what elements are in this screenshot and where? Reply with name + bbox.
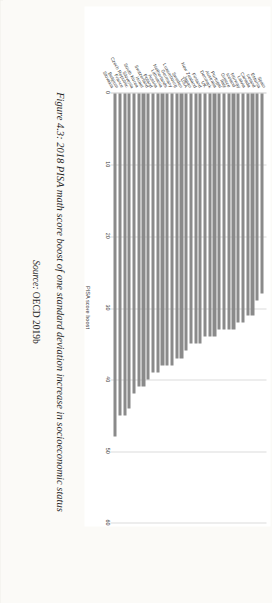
- bar-row: [222, 93, 225, 522]
- bar: [222, 93, 225, 329]
- bar-row: [236, 93, 239, 522]
- bar-row: [250, 93, 253, 522]
- bar: [127, 93, 130, 408]
- bar: [170, 93, 173, 365]
- bar-row: [160, 93, 163, 522]
- bar-row: [241, 93, 244, 522]
- figure-caption: Figure 4.3: 2018 PISA math score boost o…: [53, 14, 66, 589]
- category-axis-labels: SpainEstoniaIrelandCanadaLatviaNorwayIce…: [110, 6, 266, 90]
- source-label: Source:: [30, 260, 40, 289]
- bar-row: [146, 93, 149, 522]
- bar: [255, 93, 258, 300]
- bar: [203, 93, 206, 336]
- bar: [156, 93, 159, 372]
- value-tick-label: 60: [104, 519, 110, 525]
- bar-row: [231, 93, 234, 522]
- value-tick-label: 50: [104, 447, 110, 453]
- bar-row: [113, 93, 116, 522]
- bar: [118, 93, 121, 415]
- bar: [160, 93, 163, 365]
- bar: [208, 93, 211, 336]
- bar: [165, 93, 168, 365]
- bar-row: [260, 93, 263, 522]
- bar: [250, 93, 253, 315]
- value-tick-label: 20: [104, 232, 110, 238]
- bar-row: [255, 93, 258, 522]
- value-axis-title: PISA score boost: [84, 92, 90, 522]
- value-tick-label: 10: [104, 161, 110, 167]
- bar: [241, 93, 244, 322]
- bar: [236, 93, 239, 322]
- bar: [217, 93, 220, 329]
- bar-row: [165, 93, 168, 522]
- bar-row: [179, 93, 182, 522]
- bar-series: [110, 93, 266, 522]
- bar: [179, 93, 182, 358]
- bar-row: [151, 93, 154, 522]
- bar: [123, 93, 126, 415]
- bar: [194, 93, 197, 343]
- bar-chart: SpainEstoniaIrelandCanadaLatviaNorwayIce…: [84, 6, 270, 526]
- bar-row: [212, 93, 215, 522]
- bar-row: [194, 93, 197, 522]
- bar: [146, 93, 149, 379]
- bar-row: [198, 93, 201, 522]
- rotated-figure-container: SpainEstoniaIrelandCanadaLatviaNorwayIce…: [0, 0, 272, 603]
- bar: [113, 93, 116, 436]
- plot-area: [110, 92, 266, 522]
- bar-row: [132, 93, 135, 522]
- value-axis-ticks: 0102030405060: [92, 92, 110, 522]
- source-value: OECD 2019b: [30, 291, 40, 343]
- bar-row: [127, 93, 130, 522]
- bar-row: [118, 93, 121, 522]
- figure-4-3: SpainEstoniaIrelandCanadaLatviaNorwayIce…: [0, 0, 272, 603]
- bar-row: [203, 93, 206, 522]
- bar: [212, 93, 215, 336]
- bar: [151, 93, 154, 372]
- bar-row: [175, 93, 178, 522]
- bar: [227, 93, 230, 329]
- bar-row: [184, 93, 187, 522]
- bar: [189, 93, 192, 343]
- value-tick-label: 40: [104, 376, 110, 382]
- bar: [231, 93, 234, 329]
- bar-row: [246, 93, 249, 522]
- bar: [198, 93, 201, 343]
- figure-source: Source: OECD 2019b: [30, 14, 40, 589]
- book-page: SpainEstoniaIrelandCanadaLatviaNorwayIce…: [0, 0, 272, 603]
- bar: [184, 93, 187, 350]
- bar: [246, 93, 249, 315]
- bar-row: [217, 93, 220, 522]
- bar-row: [123, 93, 126, 522]
- bar-row: [137, 93, 140, 522]
- value-tick-label: 30: [104, 304, 110, 310]
- bar: [141, 93, 144, 386]
- bar-row: [208, 93, 211, 522]
- bar: [137, 93, 140, 386]
- value-tick-label: 0: [104, 91, 110, 94]
- bar-row: [156, 93, 159, 522]
- bar: [175, 93, 178, 358]
- bar: [132, 93, 135, 393]
- bar-row: [170, 93, 173, 522]
- bar-row: [189, 93, 192, 522]
- bar-row: [227, 93, 230, 522]
- bar-row: [141, 93, 144, 522]
- bar: [260, 93, 263, 293]
